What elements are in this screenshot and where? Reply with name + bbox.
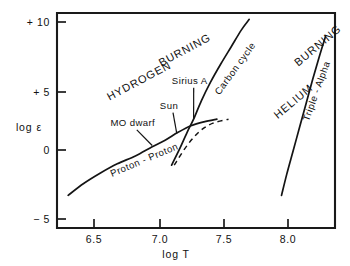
annotation-m0-dwarf: MO dwarf [110,117,155,128]
x-tick-label-7-0: 7.0 [152,233,168,245]
annotation-sirius-a: Sirius A [172,75,208,86]
curve-label-proton-proton: Proton - Proton [109,140,180,178]
x-tick-label-8-0: 8.0 [280,233,296,245]
chart-canvas: + 10 + 5 0 − 5 6.5 7.0 7.5 8.0 log T log… [0,0,350,266]
x-tick-label-7-5: 7.5 [216,233,232,245]
y-tick-label-zero: 0 [44,144,50,156]
x-tick-label-6-5: 6.5 [86,233,102,245]
y-tick-label-plus5: + 5 [33,86,50,98]
y-tick-label-minus5: − 5 [33,213,50,225]
x-axis-ticks [94,219,288,228]
y-tick-label-plus10: + 10 [27,16,50,28]
annotation-sun: Sun [160,100,178,111]
y-axis-ticks [57,22,66,219]
y-axis-title: log ε [16,121,42,133]
x-axis-title: log T [162,248,190,260]
leader-line-m0-dwarf [137,130,152,146]
region-label-hydrogen-burning: BURNING [157,31,213,68]
leader-line-sun [173,113,177,134]
energy-generation-chart: + 10 + 5 0 − 5 6.5 7.0 7.5 8.0 log T log… [0,0,350,266]
